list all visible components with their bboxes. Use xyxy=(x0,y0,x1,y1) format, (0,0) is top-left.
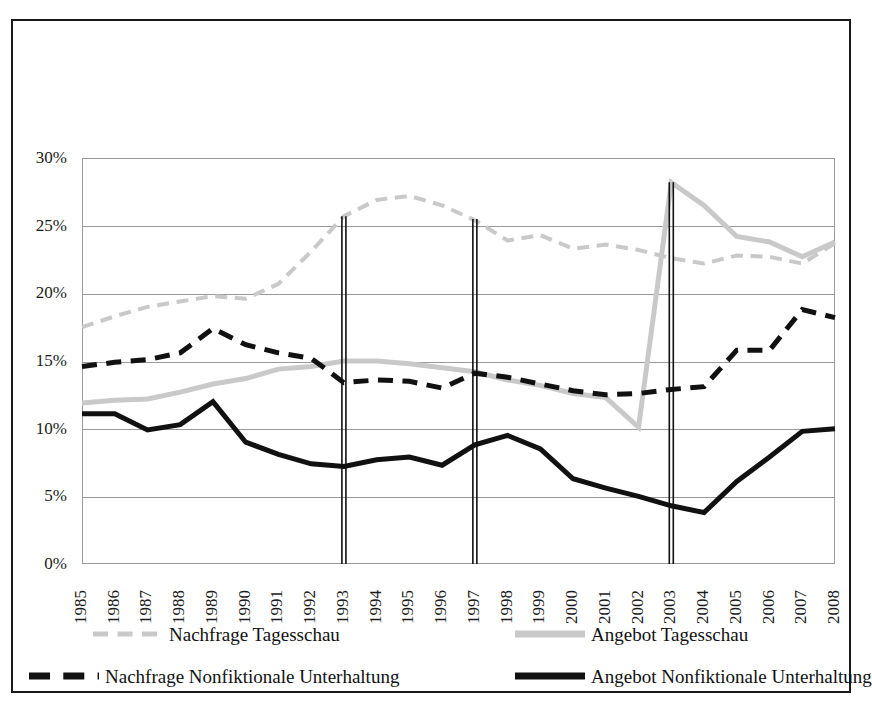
legend-item-nachfrage-nonfiktionale-unterhaltung[interactable]: Nachfrage Nonfiktionale Unterhaltung xyxy=(27,659,399,693)
legend-swatch-dashed-gray-icon xyxy=(91,627,165,641)
chart-plot-region: 0%5%10%15%20%25%30% 19851986198719881989… xyxy=(13,21,851,621)
legend-swatch-solid-gray-icon xyxy=(513,627,587,641)
legend-item-angebot-tagesschau[interactable]: Angebot Tagesschau xyxy=(513,617,748,651)
chart-legend: Nachfrage Tagesschau Angebot Tagesschau … xyxy=(13,617,851,693)
series-line xyxy=(82,310,835,395)
legend-item-nachfrage-tagesschau[interactable]: Nachfrage Tagesschau xyxy=(91,617,340,651)
x-axis: 1985198619871988198919901991199219931994… xyxy=(82,566,835,624)
y-tick-label: 30% xyxy=(36,149,67,166)
y-tick-label: 5% xyxy=(44,487,67,504)
legend-label: Nachfrage Tagesschau xyxy=(169,625,340,644)
series-line xyxy=(82,182,835,427)
series-line xyxy=(82,402,835,513)
y-axis: 0%5%10%15%20%25%30% xyxy=(13,158,75,564)
series-layer xyxy=(82,158,835,564)
y-tick-label: 0% xyxy=(44,555,67,572)
legend-swatch-dashed-black-icon xyxy=(27,669,101,683)
legend-label: Nachfrage Nonfiktionale Unterhaltung xyxy=(105,667,399,686)
legend-label: Angebot Nonfiktionale Unterhaltung xyxy=(591,667,872,686)
y-tick-label: 15% xyxy=(36,352,67,369)
legend-row-1: Nachfrage Tagesschau Angebot Tagesschau xyxy=(13,617,851,651)
legend-row-2: Nachfrage Nonfiktionale Unterhaltung Ang… xyxy=(13,659,851,693)
legend-label: Angebot Tagesschau xyxy=(591,625,748,644)
legend-swatch-solid-black-icon xyxy=(513,669,587,683)
y-tick-label: 20% xyxy=(36,284,67,301)
y-tick-label: 10% xyxy=(36,420,67,437)
legend-item-angebot-nonfiktionale-unterhaltung[interactable]: Angebot Nonfiktionale Unterhaltung xyxy=(513,659,872,693)
series-line xyxy=(82,196,835,327)
chart-figure: 0%5%10%15%20%25%30% 19851986198719881989… xyxy=(11,19,851,693)
y-tick-label: 25% xyxy=(36,217,67,234)
